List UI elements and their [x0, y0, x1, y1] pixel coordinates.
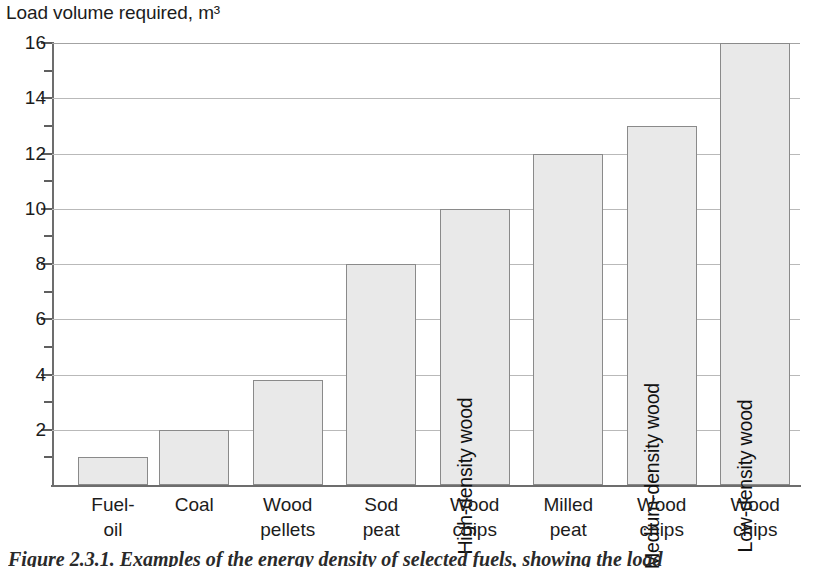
x-axis-label: Fuel-oil	[66, 492, 160, 542]
x-axis-label-line1: Wood	[450, 494, 499, 515]
y-tick-label-16: 16	[25, 33, 46, 52]
bar	[253, 380, 323, 485]
bar: High-density wood	[440, 209, 510, 485]
bar	[533, 154, 603, 486]
minor-tick-mark	[44, 456, 52, 458]
x-axis-label-line2: pellets	[241, 517, 335, 542]
bar	[346, 264, 416, 485]
chart-title: Load volume required, m³	[6, 1, 220, 25]
y-tick-label-10: 10	[25, 199, 46, 218]
x-axis-label-line2: chips	[428, 517, 522, 542]
bar	[78, 457, 148, 485]
x-axis-label: Woodpellets	[241, 492, 335, 542]
plot-area: 161412108642 High-density woodMedium-den…	[52, 43, 800, 486]
y-tick-label-4: 4	[35, 365, 46, 384]
x-axis-label-line2: chips	[708, 517, 802, 542]
y-tick-label-14: 14	[25, 88, 46, 107]
bar	[159, 430, 229, 485]
x-axis-label-line1: Fuel-	[91, 494, 134, 515]
x-axis-label-line2: oil	[66, 517, 160, 542]
x-axis-labels-group: Fuel-oilCoalWoodpelletsSodpeatWoodchipsM…	[52, 492, 800, 550]
y-tick-label-2: 2	[35, 420, 46, 439]
minor-tick-mark	[44, 346, 52, 348]
x-axis-label-line1: Wood	[637, 494, 686, 515]
bar: Low-density wood	[720, 43, 790, 485]
minor-tick-mark	[44, 401, 52, 403]
x-axis-label: Sodpeat	[334, 492, 428, 542]
gridline-14	[52, 98, 800, 99]
x-axis-line	[51, 485, 801, 487]
x-axis-label-line2: chips	[615, 517, 709, 542]
x-axis-label: Milledpeat	[521, 492, 615, 542]
y-tick-label-6: 6	[35, 309, 46, 328]
x-axis-label-line1: Coal	[175, 494, 214, 515]
x-axis-label-line1: Wood	[263, 494, 312, 515]
x-axis-label-line2: peat	[521, 517, 615, 542]
x-axis-label-line2: peat	[334, 517, 428, 542]
minor-tick-mark	[44, 70, 52, 72]
x-axis-label: Woodchips	[428, 492, 522, 542]
figure-caption: Figure 2.3.1. Examples of the energy den…	[8, 548, 819, 567]
minor-tick-mark	[44, 235, 52, 237]
x-axis-label: Woodchips	[708, 492, 802, 542]
x-axis-label: Coal	[147, 492, 241, 517]
minor-tick-mark	[44, 125, 52, 127]
minor-tick-mark	[44, 180, 52, 182]
gridline-16	[52, 43, 800, 44]
y-tick-label-8: 8	[35, 254, 46, 273]
x-axis-label: Woodchips	[615, 492, 709, 542]
x-axis-label-line1: Wood	[731, 494, 780, 515]
y-tick-label-12: 12	[25, 144, 46, 163]
minor-tick-mark	[44, 291, 52, 293]
bar: Medium-density wood	[627, 126, 697, 485]
x-axis-label-line1: Sod	[364, 494, 398, 515]
x-axis-label-line1: Milled	[543, 494, 593, 515]
